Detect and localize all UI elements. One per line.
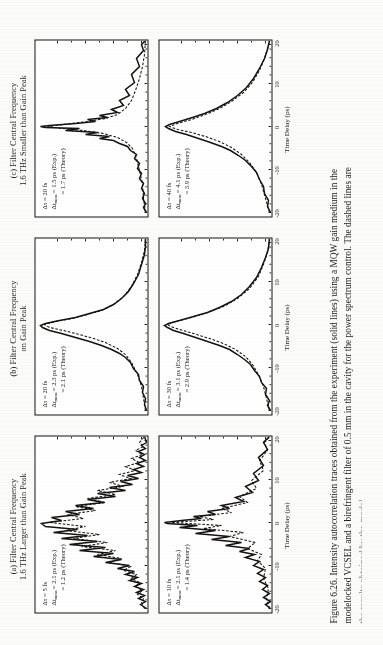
delta-tau-label: Δτ = 30 fs: [164, 346, 173, 407]
x-tick-labels-a: -20 -10 0 10 20: [272, 437, 282, 613]
x-tickmarks: [181, 40, 271, 212]
dt-theory-label: = 1.7 ps (Theory): [58, 148, 67, 194]
caption-line-3: the results obtained by the model.: [355, 23, 369, 623]
panel-annotation: Δτ = 5 fs Δtmeas = 2.1 ps (Exp.) = 1.2 p…: [40, 544, 67, 605]
plot-panel-a-top: Δτ = 5 fs Δtmeas = 2.1 ps (Exp.) = 1.2 p…: [34, 435, 148, 613]
dt-exp-label: Δtmeas = 4.1 ps (Exp.): [173, 148, 182, 209]
dt-exp-label: Δtmeas = 2.1 ps (Exp.): [173, 544, 182, 605]
x-tickmarks: [181, 238, 271, 410]
panel-annotation: Δτ = 20 fs Δtmeas = 2.3 ps (Exp.) = 2.1 …: [40, 346, 67, 407]
dt-exp-label: Δtmeas = 2.3 ps (Exp.): [49, 346, 58, 407]
panel-annotation: Δτ = 40 fs Δtmeas = 4.1 ps (Exp.) = 3.9 …: [164, 148, 191, 209]
column-header-c: (c) Filter Central Frequency 1.6 THz Sma…: [8, 37, 28, 223]
plot-panel-c-top: Δτ = 20 fs Δtmeas = 1.5 ps (Exp.) = 1.7 …: [34, 39, 148, 217]
delta-tau-label: Δτ = 10 fs: [164, 544, 173, 605]
panel-annotation: Δτ = 20 fs Δtmeas = 1.5 ps (Exp.) = 1.7 …: [40, 148, 67, 209]
dt-exp-label: Δtmeas = 1.5 ps (Exp.): [49, 148, 58, 209]
figure-caption: Figure 6.26. Intensity autocorrelation t…: [326, 23, 369, 623]
x-tickmarks: [57, 40, 147, 212]
dt-exp-label: Δtmeas = 2.1 ps (Exp.): [49, 544, 58, 605]
plot-panel-a-bottom: Δτ = 10 fs Δtmeas = 2.1 ps (Exp.) = 1.4 …: [158, 435, 272, 613]
x-tickmarks: [57, 238, 147, 410]
delta-tau-label: Δτ = 40 fs: [164, 148, 173, 209]
dt-theory-label: = 1.2 ps (Theory): [58, 544, 67, 590]
column-header-b: (b) Filter Central Frequency on Gain Pea…: [8, 235, 28, 421]
panel-annotation: Δτ = 10 fs Δtmeas = 2.1 ps (Exp.) = 1.4 …: [164, 544, 191, 605]
x-axis-label-c: Time Delay (ps): [282, 41, 290, 217]
dt-theory-label: = 3.9 ps (Theory): [182, 148, 191, 194]
dt-theory-label: = 1.4 ps (Theory): [182, 544, 191, 590]
plot-panel-b-top: Δτ = 20 fs Δtmeas = 2.3 ps (Exp.) = 2.1 …: [34, 237, 148, 415]
caption-line-1: Figure 6.26. Intensity autocorrelation t…: [326, 23, 340, 623]
scanned-page: (a) Filter Central Frequency 1.6 THz Lar…: [0, 0, 383, 645]
delta-tau-label: Δτ = 5 fs: [40, 544, 49, 605]
x-tick-labels-b: -20 -10 0 10 20: [272, 239, 282, 415]
dt-theory-label: = 2.9 ps (Theory): [182, 346, 191, 392]
delta-tau-label: Δτ = 20 fs: [40, 346, 49, 407]
dt-theory-label: = 2.1 ps (Theory): [58, 346, 67, 392]
panel-annotation: Δτ = 30 fs Δtmeas = 3.1 ps (Exp.) = 2.9 …: [164, 346, 191, 407]
plot-panel-c-bottom: Δτ = 40 fs Δtmeas = 4.1 ps (Exp.) = 3.9 …: [158, 39, 272, 217]
x-tickmarks: [181, 436, 271, 608]
x-axis-label-b: Time Delay (ps): [282, 239, 290, 415]
plot-panel-b-bottom: Δτ = 30 fs Δtmeas = 3.1 ps (Exp.) = 2.9 …: [158, 237, 272, 415]
caption-line-2: modelocked VCSEL and a birefringent filt…: [340, 23, 354, 623]
dt-exp-label: Δtmeas = 3.1 ps (Exp.): [173, 346, 182, 407]
delta-tau-label: Δτ = 20 fs: [40, 148, 49, 209]
x-tick-labels-c: -20 -10 0 10 20: [272, 41, 282, 217]
figure-6-26: (a) Filter Central Frequency 1.6 THz Lar…: [8, 25, 308, 625]
x-axis-label-a: Time Delay (ps): [282, 437, 290, 613]
rotated-page-content: (a) Filter Central Frequency 1.6 THz Lar…: [0, 0, 383, 645]
column-header-a: (a) Filter Central Frequency 1.6 THz Lar…: [8, 433, 28, 619]
